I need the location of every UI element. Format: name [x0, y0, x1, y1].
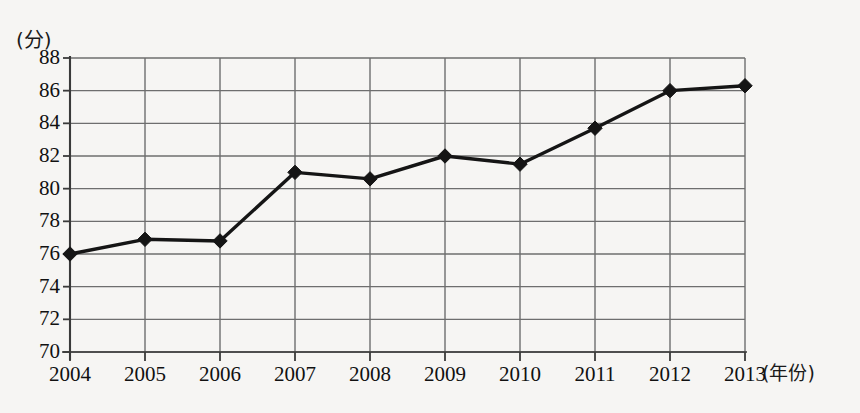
y-axis-tick-label: 78 — [14, 208, 60, 233]
x-axis-tick-label: 2008 — [330, 362, 410, 387]
axis-lines — [62, 56, 747, 360]
data-point-marker — [138, 232, 152, 246]
y-axis-tick-label: 76 — [14, 241, 60, 266]
x-axis-tick-label: 2004 — [30, 362, 110, 387]
x-axis-tick-label: 2013 — [705, 362, 785, 387]
line-chart: (分) (年份) 70727476788082848688 2004200520… — [0, 0, 860, 413]
x-axis-tick-marks — [70, 352, 745, 361]
data-point-marker — [438, 149, 452, 163]
x-axis-tick-label: 2005 — [105, 362, 185, 387]
data-point-markers — [63, 79, 752, 262]
x-axis-tick-label: 2009 — [405, 362, 485, 387]
data-point-marker — [363, 172, 377, 186]
y-axis-tick-label: 80 — [14, 176, 60, 201]
x-axis-tick-label: 2010 — [480, 362, 560, 387]
y-axis-tick-label: 88 — [14, 45, 60, 70]
y-axis-tick-label: 70 — [14, 339, 60, 364]
data-point-marker — [513, 157, 527, 171]
y-axis-tick-label: 84 — [14, 110, 60, 135]
data-point-marker — [63, 247, 77, 261]
data-series-line — [70, 86, 745, 254]
y-axis-tick-label: 72 — [14, 306, 60, 331]
x-axis-tick-label: 2006 — [180, 362, 260, 387]
x-axis-tick-label: 2011 — [555, 362, 635, 387]
y-axis-tick-label: 82 — [14, 143, 60, 168]
y-axis-tick-label: 86 — [14, 78, 60, 103]
chart-canvas — [0, 0, 860, 413]
x-axis-tick-label: 2007 — [255, 362, 335, 387]
y-axis-tick-label: 74 — [14, 274, 60, 299]
x-axis-tick-label: 2012 — [630, 362, 710, 387]
data-point-marker — [663, 83, 677, 97]
